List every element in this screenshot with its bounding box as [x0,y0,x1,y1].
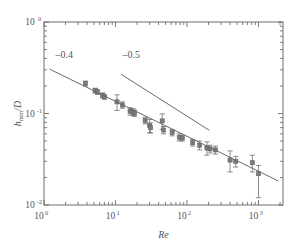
svg-text:10: 10 [25,200,35,210]
svg-text:1: 1 [116,209,119,216]
svg-text:2: 2 [188,209,191,216]
svg-text:3: 3 [259,209,262,216]
svg-text:-2: -2 [37,198,42,205]
x-axis-title: Re [157,229,169,240]
annotation-label-slope-fit: –0.4 [55,49,73,60]
svg-text:10: 10 [25,17,35,27]
data-marker [180,136,184,140]
loglog-scatter-plot: 100101102103 10010-110-2 –0.4–0.5 Re hmi… [0,0,307,250]
svg-text:0: 0 [45,209,48,216]
data-marker [198,143,202,147]
svg-text:10: 10 [177,211,187,221]
figure-container: 100101102103 10010-110-2 –0.4–0.5 Re hmi… [0,0,307,250]
annotation-label-slope-reference: –0.5 [121,49,140,60]
data-marker [143,118,147,122]
data-marker [149,126,153,130]
svg-text:10: 10 [34,211,44,221]
data-marker [160,119,164,123]
data-marker [191,141,195,145]
svg-text:-1: -1 [37,107,42,114]
data-marker [161,128,165,132]
svg-text:0: 0 [38,15,41,22]
data-marker [170,130,174,134]
svg-text:10: 10 [106,211,116,221]
x-axis-title-text: Re [157,229,169,240]
data-marker [83,81,87,85]
svg-text:10: 10 [249,211,259,221]
data-marker [250,161,254,165]
svg-text:10: 10 [25,109,35,119]
